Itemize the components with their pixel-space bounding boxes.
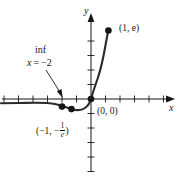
inflection-annotation-line2: x=−2 (27, 58, 52, 69)
minimum-label-fraction: 1e (60, 122, 66, 139)
graph-figure: y x inf x=−2 (1, e) (0, 0) (−1, −1e) (0, 0, 182, 186)
minimum-label-prefix: (−1, − (36, 126, 59, 136)
point-marker-inflection (59, 103, 66, 110)
x-axis-label: x (169, 103, 173, 114)
inflection-value: −2 (41, 57, 52, 68)
point-marker-1-e (105, 27, 112, 34)
inflection-annotation-line1: inf (35, 45, 46, 56)
point-marker-minimum (68, 106, 75, 113)
inflection-equals: = (33, 57, 39, 68)
inflection-var: x (27, 57, 31, 68)
minimum-label-suffix: ) (66, 126, 69, 136)
graph-canvas (0, 0, 182, 186)
point-label-origin: (0, 0) (97, 107, 118, 117)
y-axis-label: y (84, 6, 88, 17)
fraction-numerator: 1 (60, 122, 66, 130)
inflection-arrow (46, 70, 63, 98)
point-label-1-e: (1, e) (119, 24, 139, 34)
fraction-denominator: e (60, 130, 66, 139)
point-marker-origin (88, 96, 95, 103)
point-label-minimum: (−1, −1e) (36, 122, 69, 139)
